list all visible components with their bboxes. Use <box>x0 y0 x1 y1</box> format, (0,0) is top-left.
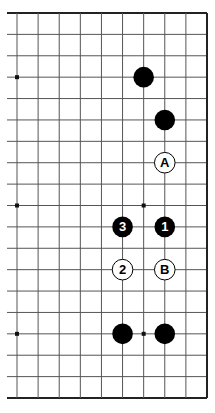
star-point <box>15 75 19 79</box>
black-stone-disc <box>154 324 175 345</box>
stone-label: 3 <box>119 219 126 234</box>
board-grid <box>7 13 207 398</box>
star-point <box>142 332 146 336</box>
stone-label: B <box>160 262 169 277</box>
numbered-black-stone: 3 <box>112 217 133 238</box>
star-point <box>142 204 146 208</box>
black-stone-disc <box>112 324 133 345</box>
black-stone <box>112 324 133 345</box>
letter-marker-a: A <box>154 152 175 173</box>
stone-label: 2 <box>119 262 126 277</box>
black-stone <box>133 67 154 88</box>
black-stone-disc <box>154 110 175 131</box>
numbered-white-stone: 2 <box>112 259 133 280</box>
numbered-black-stone: 1 <box>154 217 175 238</box>
black-stone-disc <box>133 67 154 88</box>
letter-marker-b: B <box>154 259 175 280</box>
go-board-diagram: 123AB <box>0 0 215 413</box>
black-stone <box>154 324 175 345</box>
stone-label: A <box>160 155 170 170</box>
black-stone <box>154 110 175 131</box>
star-point <box>15 332 19 336</box>
star-point <box>15 204 19 208</box>
stone-label: 1 <box>161 219 168 234</box>
